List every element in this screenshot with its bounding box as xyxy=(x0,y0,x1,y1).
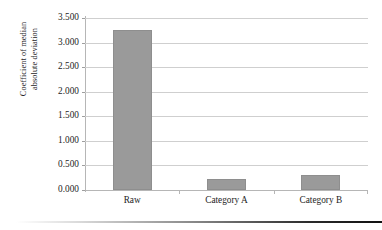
y-axis-title-line-1: Coefficient of median xyxy=(19,22,30,96)
chart-figure: Coefficient of median absolute deviation… xyxy=(0,0,382,230)
y-axis-tick-mark xyxy=(82,165,85,166)
y-axis-tick-label: 1.000 xyxy=(35,136,79,145)
x-axis-tick-mark xyxy=(179,190,180,194)
y-axis-tick-mark xyxy=(82,43,85,44)
y-axis-tick-label: 3.000 xyxy=(35,38,79,47)
y-axis-tick-label: 1.500 xyxy=(35,112,79,121)
y-axis-tick-mark xyxy=(82,141,85,142)
x-axis-tick-mark xyxy=(274,190,275,194)
y-axis-tick-mark xyxy=(82,67,85,68)
y-axis-tick-label: 2.000 xyxy=(35,87,79,96)
y-axis-tick-label: 3.500 xyxy=(35,13,79,22)
y-axis-tick-mark xyxy=(82,190,85,191)
x-axis-tick-mark xyxy=(367,190,368,194)
bar-category-a xyxy=(207,179,246,190)
x-axis-label: Category A xyxy=(180,195,274,206)
x-axis-label: Raw xyxy=(85,195,179,206)
y-axis-tick-mark xyxy=(82,92,85,93)
bar-raw xyxy=(113,30,152,190)
y-axis-tick-mark xyxy=(82,116,85,117)
plot-area: 0.0000.5001.0001.5002.0002.5003.0003.500 xyxy=(85,18,368,190)
x-axis-label: Category B xyxy=(274,195,368,206)
y-axis-tick-mark xyxy=(82,18,85,19)
gridline xyxy=(85,190,368,191)
bar-category-b xyxy=(301,175,340,190)
gridline xyxy=(85,18,368,19)
y-axis-tick-label: 2.500 xyxy=(35,63,79,72)
y-axis-tick-label: 0.000 xyxy=(35,185,79,194)
footer-rule xyxy=(16,221,382,223)
y-axis-tick-label: 0.500 xyxy=(35,161,79,170)
